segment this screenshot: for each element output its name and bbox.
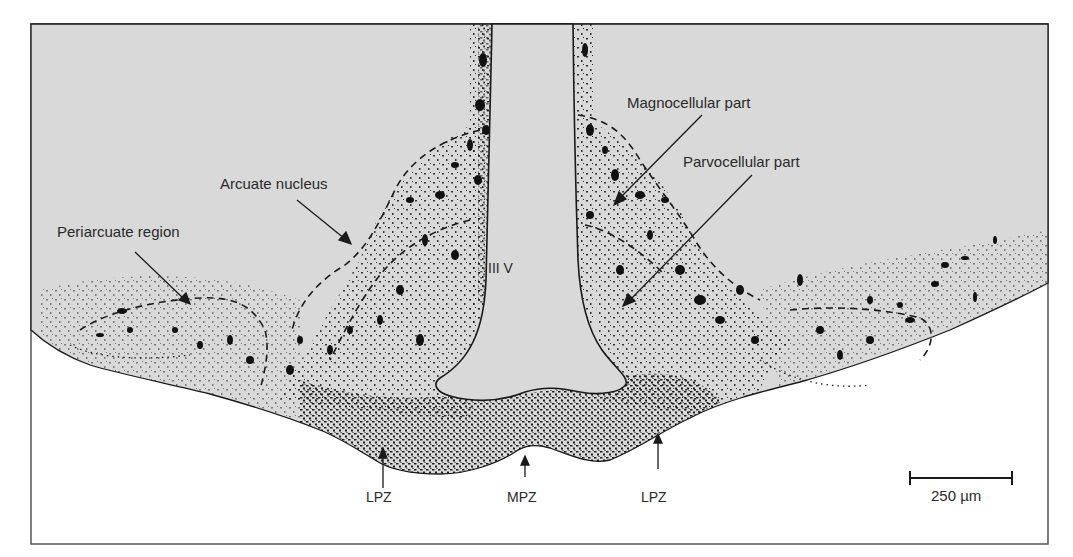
ventricle-label: III V	[488, 261, 513, 275]
scale-bar-label: 250 µm	[931, 488, 981, 503]
arcuate-nucleus-label: Arcuate nucleus	[220, 176, 328, 191]
mpz-label: MPZ	[507, 490, 537, 504]
magnocellular-part-label: Magnocellular part	[627, 95, 750, 110]
section-drawing	[0, 0, 1073, 557]
parvocellular-part-label: Parvocellular part	[683, 154, 800, 169]
hypothalamus-section-figure: III V Arcuate nucleus Periarcuate region…	[0, 0, 1073, 557]
lpz-left-label: LPZ	[366, 490, 392, 504]
lpz-right-label: LPZ	[641, 490, 667, 504]
periarcuate-region-label: Periarcuate region	[57, 224, 180, 239]
